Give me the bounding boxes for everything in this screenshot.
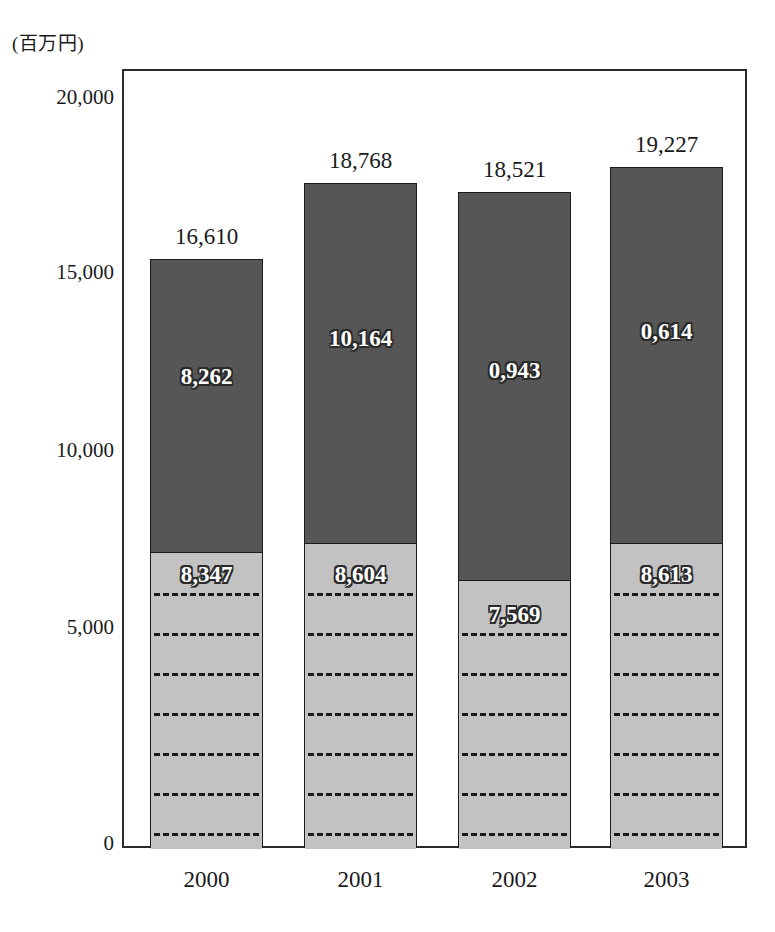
bar-stack-2002[interactable]: 0,943 7,569	[458, 192, 571, 848]
bar-total-label-2003: 19,227	[610, 133, 723, 156]
bar-segment-lower-label-2003: 8,613	[611, 563, 722, 586]
bar-segment-upper-2000[interactable]: 8,262	[151, 260, 262, 553]
bar-stack-2003[interactable]: 0,614 8,613	[610, 167, 723, 848]
hatch-pattern-2001	[308, 544, 413, 849]
x-tick-2003: 2003	[610, 868, 723, 891]
bar-total-label-2001: 18,768	[304, 149, 417, 172]
bar-segment-lower-2001[interactable]: 8,604	[305, 544, 416, 849]
hatch-pattern-2003	[614, 544, 719, 849]
bar-segment-lower-2003[interactable]: 8,613	[611, 544, 722, 849]
bar-group-2000: 16,610 8,262 8,347	[150, 69, 263, 848]
stacked-bar-chart: (百万円) 20,000 15,000 10,000 5,000 0 16,61…	[0, 0, 775, 932]
y-tick-10000: 10,000	[6, 440, 114, 461]
bar-segment-lower-label-2000: 8,347	[151, 563, 262, 586]
hatch-pattern-2000	[154, 553, 259, 849]
bars-layer: 16,610 8,262 8,347	[122, 69, 747, 848]
bar-segment-lower-2002[interactable]: 7,569	[459, 581, 570, 849]
bar-total-label-2002: 18,521	[458, 158, 571, 181]
y-tick-5000: 5,000	[6, 617, 114, 638]
bar-segment-upper-2001[interactable]: 10,164	[305, 184, 416, 544]
bar-segment-upper-2002[interactable]: 0,943	[459, 193, 570, 581]
x-tick-2000: 2000	[150, 868, 263, 891]
bar-group-2003: 19,227 0,614 8,613	[610, 69, 723, 848]
y-axis-tick-labels: 20,000 15,000 10,000 5,000 0	[0, 0, 114, 932]
y-tick-20000: 20,000	[6, 87, 114, 108]
x-tick-2002: 2002	[458, 868, 571, 891]
bar-total-label-2000: 16,610	[150, 225, 263, 248]
bar-segment-lower-label-2001: 8,604	[305, 563, 416, 586]
bar-segment-upper-2003[interactable]: 0,614	[611, 168, 722, 544]
bar-group-2001: 18,768 10,164 8,604	[304, 69, 417, 848]
y-tick-15000: 15,000	[6, 262, 114, 283]
x-tick-2001: 2001	[304, 868, 417, 891]
bar-segment-upper-label-2000: 8,262	[151, 365, 262, 388]
bar-segment-lower-label-2002: 7,569	[459, 603, 570, 626]
bar-segment-lower-2000[interactable]: 8,347	[151, 553, 262, 849]
bar-segment-upper-label-2002: 0,943	[459, 359, 570, 382]
bar-stack-2000[interactable]: 8,262 8,347	[150, 259, 263, 848]
bar-segment-upper-label-2001: 10,164	[305, 327, 416, 350]
bar-group-2002: 18,521 0,943 7,569	[458, 69, 571, 848]
bar-stack-2001[interactable]: 10,164 8,604	[304, 183, 417, 848]
bar-segment-upper-label-2003: 0,614	[611, 320, 722, 343]
y-tick-0: 0	[6, 833, 114, 854]
